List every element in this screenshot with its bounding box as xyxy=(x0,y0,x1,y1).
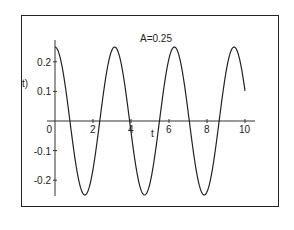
y-axis-label: t) xyxy=(22,78,28,89)
y-tick-label: 0 xyxy=(46,124,52,135)
x-tick-label: 10 xyxy=(239,124,251,135)
x-axis-label: t xyxy=(151,128,154,139)
line-chart: 0.20.10-0.1-0.2 246810 A=0.25 t) t xyxy=(0,0,294,230)
x-tick-label: 8 xyxy=(204,124,210,135)
y-tick-label: -0.2 xyxy=(34,175,52,186)
x-tick-label: 2 xyxy=(90,124,96,135)
y-tick-label: 0.1 xyxy=(37,86,51,97)
chart-title: A=0.25 xyxy=(140,33,172,44)
x-tick-label: 6 xyxy=(166,124,172,135)
y-tick-label: 0.2 xyxy=(37,57,51,68)
y-tick-label: -0.1 xyxy=(34,146,52,157)
